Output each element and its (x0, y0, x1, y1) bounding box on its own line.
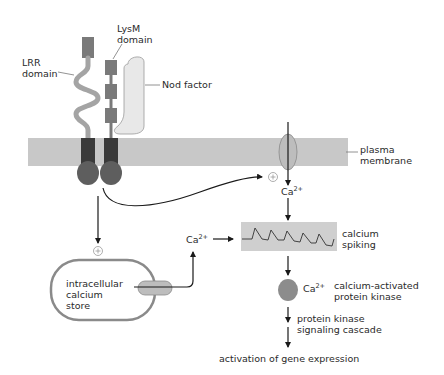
ca-ion-membrane-label: Ca2+ (281, 186, 303, 197)
lrr-kinase-domain (77, 161, 99, 185)
nod-factor-shape (114, 57, 144, 134)
lrr-leader (58, 72, 74, 75)
lysm-leader (113, 44, 122, 59)
nod-factor-label: Nod factor (162, 79, 212, 90)
calcium-spiking-box (241, 222, 337, 251)
lysm-block-3 (105, 108, 117, 123)
activation-of-gene-expression-label: activation of gene expression (219, 353, 359, 364)
ca-ion-store-label: Ca2+ (186, 234, 208, 245)
protein-kinase-signaling-cascade-label: protein kinase signaling cascade (297, 313, 382, 335)
lysm-domain-label: LysM domain (117, 23, 153, 45)
calcium-spiking-label: calcium spiking (342, 228, 379, 250)
plasma-membrane (28, 138, 348, 166)
lrr-domain-label: LRR domain (22, 57, 58, 79)
lysm-block-2 (105, 84, 117, 99)
receptor-to-channel-arrow (103, 177, 262, 206)
calcium-activated-protein-kinase-shape (278, 279, 298, 301)
lysm-receptor (100, 60, 122, 185)
lysm-block-1 (105, 60, 117, 75)
store-channel (138, 281, 172, 295)
lrr-wavy-stalk (76, 58, 98, 140)
lysm-kinase-domain (100, 161, 122, 185)
plasma-membrane-label: plasma membrane (360, 144, 412, 166)
calcium-activated-protein-kinase-label: calcium-activated protein kinase (334, 280, 419, 302)
lrr-head-block (82, 37, 94, 58)
ca-ion-kinase-label: Ca2+ (303, 283, 325, 294)
intracellular-calcium-store-label: intracellular calcium store (66, 278, 123, 311)
